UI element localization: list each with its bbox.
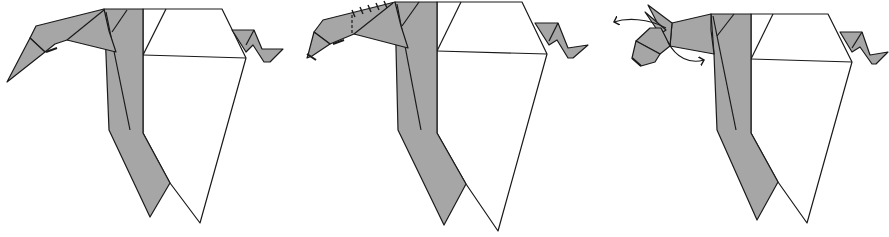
step-3-figure — [632, 5, 888, 223]
origami-diagram — [0, 0, 889, 237]
diagram-canvas — [0, 0, 889, 237]
neck-gray — [670, 14, 714, 54]
neck-gray — [30, 9, 116, 52]
step-2-figure — [307, 1, 588, 231]
step-1-figure — [7, 9, 283, 223]
